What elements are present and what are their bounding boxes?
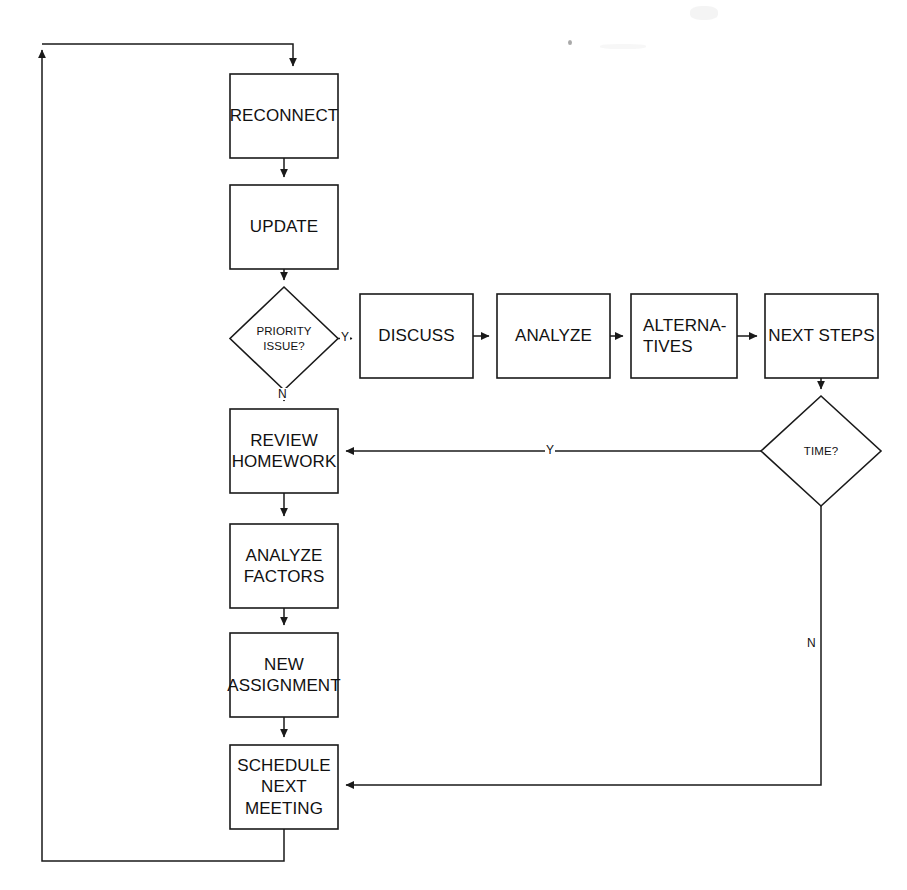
scan-smudge xyxy=(600,44,646,49)
node-analyze-factors[interactable] xyxy=(230,524,338,608)
edge-label-time-yes: Y xyxy=(545,444,555,456)
node-next-steps[interactable] xyxy=(765,294,878,378)
node-new-assignment[interactable] xyxy=(230,633,338,717)
node-analyze[interactable] xyxy=(497,294,610,378)
edge-label-priority-yes: Y xyxy=(340,331,350,343)
edge-label-time-no: N xyxy=(806,637,817,649)
node-time[interactable] xyxy=(761,396,881,506)
flowchart-svg xyxy=(0,0,907,890)
node-alternatives[interactable] xyxy=(631,294,737,378)
scan-smudge-right xyxy=(690,6,718,20)
scan-speck-icon xyxy=(568,40,572,45)
node-discuss[interactable] xyxy=(360,294,473,378)
edge-time-to-schedule xyxy=(346,506,821,785)
node-schedule-next-meeting[interactable] xyxy=(230,745,338,829)
node-review-homework[interactable] xyxy=(230,409,338,493)
edge-loop-to-reconnect xyxy=(42,44,293,66)
flowchart-canvas: RECONNECT UPDATE PRIORITY ISSUE? DISCUSS… xyxy=(0,0,907,890)
node-update[interactable] xyxy=(230,185,338,269)
edge-label-priority-no: N xyxy=(277,388,288,400)
node-priority-issue[interactable] xyxy=(230,287,338,390)
node-reconnect[interactable] xyxy=(230,74,338,158)
